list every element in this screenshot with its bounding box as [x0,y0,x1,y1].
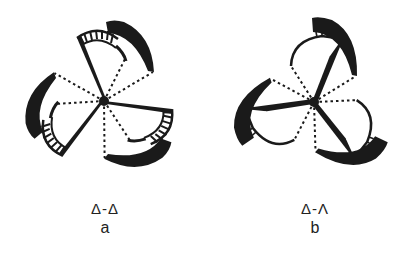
panel-b-diagram [200,0,399,190]
panel-a-caption: Δ-Δ a [65,200,145,238]
panel-b-caption: Δ-Λ b [275,200,355,238]
panel-a-diagram [0,0,200,190]
three-blade-propeller-a [0,0,200,190]
panel-a-label: a [65,218,145,238]
panel-a-configuration: Δ-Δ [65,200,145,218]
panel-b-label: b [275,218,355,238]
panel-b-configuration: Δ-Λ [275,200,355,218]
three-blade-propeller-b [200,0,399,190]
